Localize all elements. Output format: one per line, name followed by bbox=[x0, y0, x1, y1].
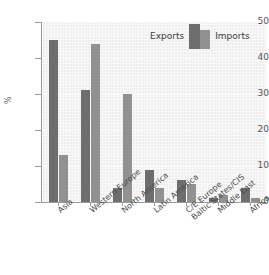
y-axis-tick bbox=[35, 22, 41, 23]
gridline bbox=[42, 94, 266, 95]
bar-exports bbox=[81, 90, 90, 202]
y-axis-tick-label: 20 bbox=[237, 125, 269, 134]
y-axis-tick bbox=[35, 202, 41, 203]
legend-swatch-exports bbox=[189, 24, 200, 49]
y-axis-tick bbox=[35, 166, 41, 167]
y-axis-title: % bbox=[4, 96, 13, 104]
bar-chart: 01020304050 AsiaWestern EuropeNorth Amer… bbox=[0, 0, 269, 275]
bar-imports bbox=[91, 44, 100, 202]
y-axis-tick-label: 10 bbox=[237, 161, 269, 170]
bar-imports bbox=[59, 155, 68, 202]
gridline bbox=[42, 130, 266, 131]
y-axis-line bbox=[41, 22, 42, 203]
y-axis-tick bbox=[35, 58, 41, 59]
y-axis-tick-label: 30 bbox=[237, 89, 269, 98]
bar-exports bbox=[49, 40, 58, 202]
y-axis-tick bbox=[35, 94, 41, 95]
legend-swatches bbox=[189, 24, 210, 49]
chart-legend: Exports Imports bbox=[150, 23, 250, 49]
legend-swatch-imports bbox=[200, 30, 210, 49]
legend-label-imports: Imports bbox=[215, 32, 250, 49]
gridline bbox=[42, 58, 266, 59]
y-axis-tick bbox=[35, 130, 41, 131]
legend-label-exports: Exports bbox=[150, 32, 184, 49]
y-axis-tick-label: 40 bbox=[237, 53, 269, 62]
